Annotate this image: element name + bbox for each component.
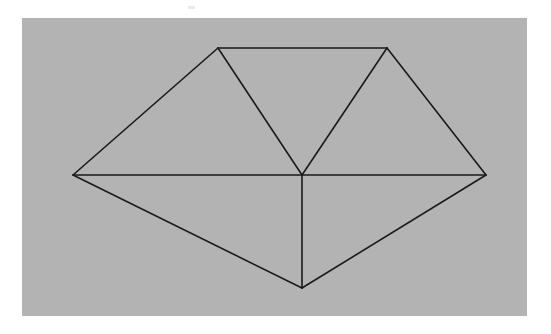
gray-drawing-panel — [22, 18, 527, 316]
scan-speck — [188, 6, 195, 9]
figure-root — [0, 0, 551, 334]
polygon-diagram — [0, 0, 551, 334]
scan-artifacts — [188, 6, 195, 9]
